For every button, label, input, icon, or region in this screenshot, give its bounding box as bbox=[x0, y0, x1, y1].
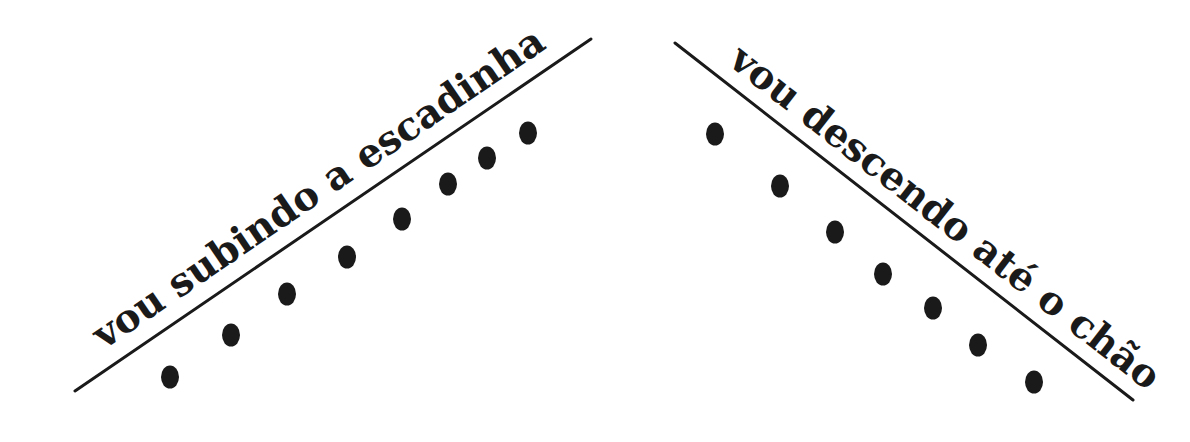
dot bbox=[771, 175, 789, 198]
descending-text: vou descendo até o chão bbox=[721, 34, 1171, 398]
dot bbox=[338, 246, 356, 269]
dot bbox=[826, 221, 844, 244]
dot bbox=[393, 208, 411, 231]
dot bbox=[439, 173, 457, 196]
ascending-text: vou subindo a escadinha bbox=[82, 17, 552, 358]
dot bbox=[478, 147, 496, 170]
illustration: vou subindo a escadinha vou descendo até… bbox=[0, 0, 1190, 442]
dot bbox=[222, 324, 240, 347]
dot bbox=[278, 283, 296, 306]
dot bbox=[706, 123, 724, 146]
dot bbox=[969, 334, 987, 357]
dot bbox=[519, 122, 537, 145]
ascending-group: vou subindo a escadinha bbox=[75, 17, 591, 391]
ascending-line bbox=[75, 39, 591, 391]
descending-group: vou descendo até o chão bbox=[675, 34, 1170, 400]
dot bbox=[1025, 371, 1043, 394]
descending-line bbox=[675, 43, 1133, 400]
dot bbox=[924, 297, 942, 320]
dot bbox=[161, 366, 179, 389]
dot bbox=[874, 263, 892, 286]
